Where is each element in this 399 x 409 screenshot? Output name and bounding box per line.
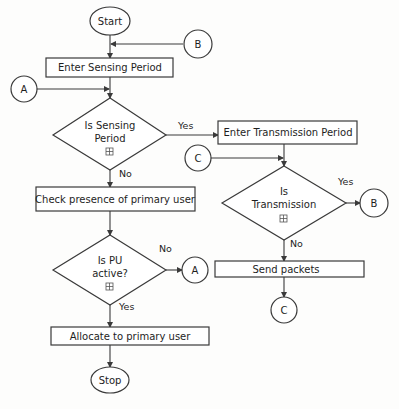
enter-sensing-label: Enter Sensing Period [58,62,162,73]
flowchart-canvas: Start Stop Enter Sensing Period Check pr… [0,0,399,409]
decision-pu-active: Is PU active? [53,235,166,305]
label-pu-no: No [159,243,172,254]
stop-label: Stop [99,375,122,386]
connector-a-right-label: A [192,265,199,276]
decision-transmission-line2: Transmission [251,199,317,210]
flowchart-svg: Start Stop Enter Sensing Period Check pr… [0,0,399,409]
send-packets-label: Send packets [252,264,319,275]
label-sensing-yes: Yes [177,120,193,131]
connector-c-bottom-label: C [281,305,288,316]
process-enter-transmission: Enter Transmission Period [218,121,357,144]
enter-transmission-label: Enter Transmission Period [224,127,353,138]
label-sensing-no: No [119,168,132,179]
connector-b-right: B [360,189,388,217]
connector-a-left-label: A [21,84,28,95]
decision-pu-line1: Is PU [98,255,123,266]
process-send-packets: Send packets [215,261,364,277]
connector-b-top: B [184,30,212,58]
connector-b-top-label: B [195,39,202,50]
start-label: Start [98,16,123,27]
connector-a-right: A [182,257,208,283]
decision-sensing-line1: Is Sensing [85,120,136,131]
label-transmission-yes: Yes [337,176,353,187]
process-check-presence: Check presence of primary user [35,187,196,211]
label-transmission-no: No [290,238,303,249]
decision-transmission: Is Transmission [222,166,346,240]
decision-sensing-period: Is Sensing Period [53,98,166,170]
decision-pu-line2: active? [92,268,128,279]
stop-terminal: Stop [91,367,129,393]
connector-c-left-label: C [195,153,202,164]
connector-b-right-label: B [371,198,378,209]
decision-transmission-line1: Is [280,186,288,197]
start-terminal: Start [90,7,130,35]
allocate-label: Allocate to primary user [70,331,192,342]
decision-sensing-line2: Period [94,133,125,144]
label-pu-yes: Yes [118,301,134,312]
connector-a-left: A [11,76,37,102]
connector-c-left: C [185,145,211,171]
connector-c-bottom: C [271,297,297,323]
process-allocate: Allocate to primary user [51,327,209,345]
check-presence-label: Check presence of primary user [35,194,196,205]
process-enter-sensing: Enter Sensing Period [46,58,173,77]
